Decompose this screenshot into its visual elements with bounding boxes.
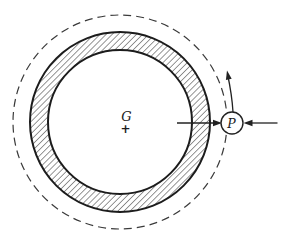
direction-arrow [226, 71, 233, 113]
center-marker-plus-icon: + [120, 122, 130, 136]
force-arrow-right-head-icon [244, 120, 253, 127]
direction-arrow-shaft [228, 74, 234, 112]
hoop-impulse-diagram: G + P [0, 0, 283, 243]
direction-arrowhead-icon [226, 71, 232, 80]
diagram-canvas: G + P [0, 0, 283, 243]
particle-label: P [226, 116, 236, 131]
force-arrow-right [244, 120, 278, 127]
